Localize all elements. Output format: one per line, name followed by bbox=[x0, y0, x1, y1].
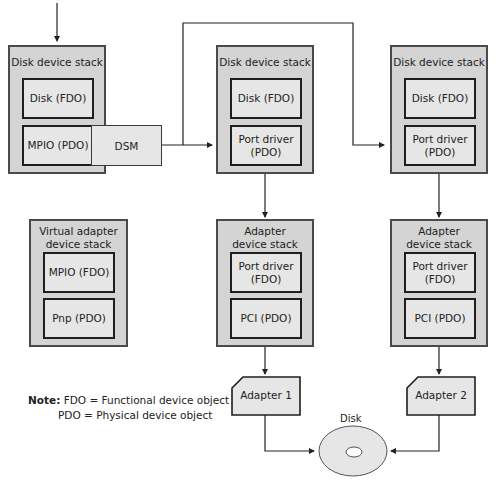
adapter-label: Adapter 2 bbox=[406, 389, 476, 401]
disk-fdo: Disk (FDO) bbox=[230, 78, 302, 119]
pci-pdo: PCI (PDO) bbox=[230, 298, 302, 339]
label-line2: (PDO) bbox=[251, 146, 282, 159]
note-prefix: Note: bbox=[28, 394, 60, 406]
stack-title: Disk device stack bbox=[392, 56, 486, 69]
pnp-pdo: Pnp (PDO) bbox=[43, 298, 115, 339]
title-line1: Virtual adapter bbox=[31, 225, 126, 238]
title-line2: device stack bbox=[218, 238, 312, 251]
stack-title: Adapter device stack bbox=[392, 225, 486, 251]
pci-pdo: PCI (PDO) bbox=[404, 298, 476, 339]
legend-note: Note: FDO = Functional device object PDO… bbox=[28, 393, 229, 423]
note-line1: FDO = Functional device object bbox=[64, 394, 229, 406]
disk-device-stack-1: Disk device stack Disk (FDO) Port driver… bbox=[216, 45, 314, 174]
adapter-device-stack-2: Adapter device stack Port driver (FDO) P… bbox=[390, 219, 488, 347]
port-driver-fdo: Port driver (FDO) bbox=[230, 252, 302, 293]
port-driver-pdo: Port driver (PDO) bbox=[404, 125, 476, 166]
disk-fdo: Disk (FDO) bbox=[22, 78, 94, 119]
disk-icon bbox=[319, 426, 387, 476]
mpio-fdo: MPIO (FDO) bbox=[43, 252, 115, 293]
title-line1: Adapter bbox=[218, 225, 312, 238]
disk-device-stack-2: Disk device stack Disk (FDO) Port driver… bbox=[390, 45, 488, 174]
dsm-box: DSM bbox=[91, 125, 162, 166]
stack-title: Adapter device stack bbox=[218, 225, 312, 251]
disk-label: Disk bbox=[340, 413, 361, 424]
label-line2: (PDO) bbox=[425, 146, 456, 159]
label-line2: (FDO) bbox=[251, 273, 282, 286]
adapter-1-card: Adapter 1 bbox=[231, 376, 301, 416]
title-line2: device stack bbox=[31, 238, 126, 251]
title-line2: device stack bbox=[392, 238, 486, 251]
adapter-device-stack-1: Adapter device stack Port driver (FDO) P… bbox=[216, 219, 314, 347]
label-line2: (FDO) bbox=[425, 273, 456, 286]
stack-title: Disk device stack bbox=[218, 56, 312, 69]
label-line1: Port driver bbox=[238, 133, 293, 146]
mpio-pdo: MPIO (PDO) bbox=[22, 125, 94, 166]
adapter-label: Adapter 1 bbox=[231, 389, 301, 401]
virtual-adapter-device-stack: Virtual adapter device stack MPIO (FDO) … bbox=[29, 219, 128, 347]
label-line1: Port driver bbox=[412, 133, 467, 146]
port-driver-pdo: Port driver (PDO) bbox=[230, 125, 302, 166]
disk-fdo: Disk (FDO) bbox=[404, 78, 476, 119]
note-line2: PDO = Physical device object bbox=[58, 409, 212, 421]
stack-title: Virtual adapter device stack bbox=[31, 225, 126, 251]
stack-title: Disk device stack bbox=[10, 56, 104, 69]
title-line1: Adapter bbox=[392, 225, 486, 238]
port-driver-fdo: Port driver (FDO) bbox=[404, 252, 476, 293]
label-line1: Port driver bbox=[238, 260, 293, 273]
label-line1: Port driver bbox=[412, 260, 467, 273]
adapter-2-card: Adapter 2 bbox=[406, 376, 476, 416]
